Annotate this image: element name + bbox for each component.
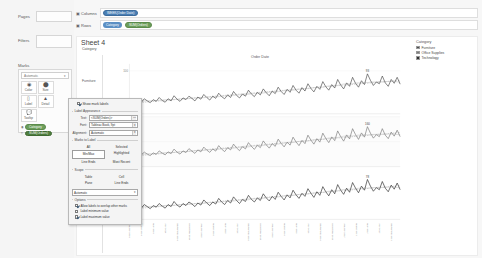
label-dialog: Show mark labels Label Appearance Text: … — [68, 98, 142, 225]
filters-shelf-dropzone[interactable] — [36, 35, 72, 48]
columns-shelf-dropzone[interactable]: WEEK(Order Date) — [100, 8, 478, 18]
scope-dropdown-value: Automatic — [74, 191, 87, 195]
marks-detail-label: Detail — [42, 102, 50, 106]
marks-button-grid: ◉ Color ⬤ Size ▯ Label ▲ Detail 💬 Too — [19, 79, 71, 122]
marks-size-button[interactable]: ⬤ Size — [38, 81, 54, 94]
line-chart-canvas[interactable]: 1009310020016078January 2014March 2014Ma… — [113, 61, 407, 253]
scope-line-ends[interactable]: Line Ends — [105, 180, 138, 187]
chevron-down-icon: ▾ — [64, 74, 66, 78]
svg-text:January 2017: January 2017 — [343, 223, 346, 238]
legend-item-technology[interactable]: Technology — [416, 56, 476, 60]
rows-pill-category[interactable]: Category — [103, 22, 122, 28]
svg-text:January 2014: January 2014 — [128, 223, 131, 238]
option-min-value-label: Label minimum value — [80, 209, 108, 213]
label-icon: ▯ — [27, 96, 30, 101]
font-field-input[interactable]: Tableau Book, 9pt ▾ — [89, 122, 138, 128]
option-overlap-checkbox[interactable] — [75, 204, 78, 207]
show-mark-labels-checkbox[interactable] — [77, 102, 80, 105]
rows-shelf-dropzone[interactable]: Category SUM(Orders) — [100, 20, 478, 30]
marks-to-label-selected[interactable]: Selected — [105, 144, 138, 151]
chevron-down-icon[interactable]: ▾ — [132, 123, 136, 127]
marks-pill-sum-orders[interactable]: SUM(Orders) — [25, 131, 52, 137]
legend-label-technology: Technology — [422, 56, 439, 60]
scope-table[interactable]: Table — [72, 173, 105, 180]
show-mark-labels-label: Show mark labels — [82, 102, 108, 106]
marks-pill-category[interactable]: Category — [25, 124, 46, 130]
svg-text:January 2015: January 2015 — [200, 223, 203, 238]
scope-section: Scope Table Cell Pane Line Ends — [72, 169, 138, 186]
marks-to-label-all[interactable]: All — [72, 144, 105, 151]
option-row-max-value[interactable]: Label maximum value — [72, 214, 138, 220]
marks-tooltip-button[interactable]: 💬 Tooltip — [21, 109, 37, 122]
svg-text:September 2016: September 2016 — [319, 223, 322, 241]
color-legend: Category Furniture Office Supplies Techn… — [416, 40, 476, 61]
marks-card-title: Marks — [18, 63, 29, 68]
svg-text:78: 78 — [366, 175, 370, 179]
marks-tooltip-label: Tooltip — [24, 116, 33, 120]
text-field-label: Text: — [72, 116, 89, 120]
label-appearance-section: Label Appearance Text: <SUM(Orders)> ⋯ F… — [72, 111, 138, 136]
chevron-down-icon[interactable]: ▾ — [132, 131, 136, 135]
legend-item-office-supplies[interactable]: Office Supplies — [416, 51, 476, 55]
legend-label-furniture: Furniture — [422, 46, 436, 50]
mark-type-selector[interactable]: Automatic ▾ — [21, 72, 69, 79]
alignment-field-input[interactable]: Automatic ▾ — [89, 130, 138, 136]
svg-text:March 2015: March 2015 — [212, 223, 215, 236]
detail-icon: ▲ — [43, 96, 48, 101]
chart-title: Order Date — [251, 55, 269, 59]
legend-swatch-technology — [416, 56, 420, 60]
chart-panels: Order Date 1009310020016078January 2014M… — [113, 55, 407, 253]
option-min-value-checkbox[interactable] — [75, 210, 78, 213]
svg-text:November 2014: November 2014 — [188, 223, 191, 241]
columns-shelf-row: ▣ Columns WEEK(Order Date) — [76, 8, 478, 18]
font-field-label: Font: — [72, 123, 89, 127]
svg-text:November 2016: November 2016 — [331, 223, 334, 241]
svg-text:160: 160 — [365, 122, 370, 126]
marks-detail-button[interactable]: ▲ Detail — [38, 95, 54, 108]
svg-text:March 2016: March 2016 — [283, 223, 286, 236]
option-overlap-label: Allow labels to overlap other marks — [80, 204, 127, 208]
scope-dropdown[interactable]: Automatic ▾ — [72, 189, 138, 196]
scope-pane[interactable]: Pane — [72, 180, 105, 187]
marks-to-label-min-max[interactable]: Min/Max — [72, 150, 105, 159]
svg-text:January 2016: January 2016 — [271, 223, 274, 238]
svg-text:May 2015: May 2015 — [224, 223, 227, 234]
rows-icon: ▣ — [76, 23, 80, 28]
columns-shelf-label: ▣ Columns — [76, 11, 100, 16]
legend-item-furniture[interactable]: Furniture — [416, 46, 476, 50]
rows-shelf-row: ▣ Rows Category SUM(Orders) — [76, 20, 478, 30]
size-icon: ⬤ — [43, 82, 49, 87]
marks-to-label-line-ends[interactable]: Line Ends — [72, 159, 105, 166]
show-mark-labels-row[interactable]: Show mark labels — [69, 99, 141, 108]
option-max-value-checkbox[interactable] — [75, 215, 78, 218]
marks-to-label-section: Marks to Label All Selected Min/Max High… — [72, 140, 138, 166]
svg-text:May 2017: May 2017 — [366, 223, 369, 234]
columns-pill-week-order-date[interactable]: WEEK(Order Date) — [103, 10, 138, 16]
marks-color-button[interactable]: ◉ Color — [21, 81, 37, 94]
text-field-input[interactable]: <SUM(Orders)> ⋯ — [89, 115, 138, 121]
marks-pill-row-label[interactable]: ▯ SUM(Orders) — [19, 130, 71, 137]
filters-shelf-label: Filters — [18, 37, 29, 43]
svg-text:July 2017: July 2017 — [378, 223, 381, 234]
svg-text:September 2015: September 2015 — [247, 223, 250, 241]
legend-swatch-office-supplies — [416, 51, 420, 55]
marks-to-label-most-recent[interactable]: Most Recent — [105, 159, 138, 166]
chevron-down-icon[interactable]: ▾ — [134, 191, 136, 194]
pages-shelf-dropzone[interactable] — [36, 11, 72, 22]
rows-pill-sum-orders[interactable]: SUM(Orders) — [125, 22, 152, 28]
svg-text:May 2016: May 2016 — [295, 223, 298, 234]
ellipsis-icon[interactable]: ⋯ — [131, 116, 136, 120]
scope-buttons: Table Cell Pane Line Ends — [72, 173, 138, 186]
scope-cell[interactable]: Cell — [105, 173, 138, 180]
shelves-area: ▣ Columns WEEK(Order Date) ▣ Rows Catego… — [76, 8, 478, 34]
marks-label-button[interactable]: ▯ Label — [21, 95, 37, 108]
marks-to-label-title: Marks to Label — [73, 138, 97, 142]
marks-to-label-highlighted[interactable]: Highlighted — [105, 150, 138, 159]
scope-title: Scope — [73, 168, 85, 172]
options-title: Options — [73, 198, 87, 202]
svg-text:November 2015: November 2015 — [259, 223, 262, 241]
font-field-value: Tableau Book, 9pt — [91, 123, 115, 127]
columns-icon: ▣ — [76, 11, 80, 16]
text-field-row: Text: <SUM(Orders)> ⋯ — [72, 115, 138, 121]
svg-text:July 2016: July 2016 — [307, 223, 310, 234]
